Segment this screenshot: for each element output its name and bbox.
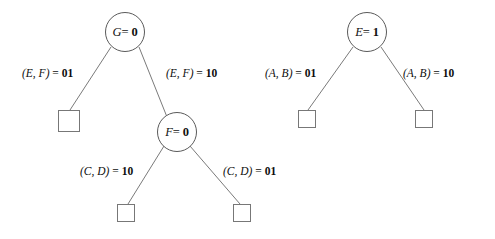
edge-label-f-right-vars: (C, D) [223,165,252,177]
edge-label-e-left-bits: 01 [305,67,317,79]
node-e-value: 1 [373,25,379,39]
edge-label-g-right-vars: (E, F) [166,67,193,79]
edge-g-right [139,47,167,117]
node-e: E= 1 [347,12,387,52]
edge-label-f-left-bits: 10 [122,165,134,177]
edge-label-g-left-bits: 01 [62,67,74,79]
edge-label-f-left-vars: (C, D) [80,165,109,177]
edge-label-f-left-equals: = [112,165,119,177]
edge-label-e-right-bits: 10 [443,67,455,79]
node-f-equals: = [173,125,180,139]
node-e-variable: E [355,25,363,39]
node-e-equals: = [363,25,370,39]
edge-label-g-left: (E, F) = 01 [22,68,73,80]
edge-label-e-right-vars: (A, B) [403,67,430,79]
edge-label-e-left: (A, B) = 01 [265,68,316,80]
node-g-value: 0 [131,25,137,39]
node-f: F= 0 [157,112,197,152]
node-g-equals: = [121,25,128,39]
edge-label-e-left-equals: = [295,67,302,79]
node-g-label: G= 0 [112,26,137,39]
edge-g-left [70,47,111,110]
edge-label-f-right: (C, D) = 01 [223,166,276,178]
edge-label-e-right-equals: = [433,67,440,79]
leaf-e-right [415,110,433,128]
leaf-g-left [58,110,80,132]
node-f-label: F= 0 [165,126,189,139]
node-g: G= 0 [105,12,145,52]
leaf-e-left [298,110,316,128]
edge-label-g-right-equals: = [196,67,203,79]
node-f-variable: F [165,125,173,139]
edge-label-g-right: (E, F) = 10 [166,68,217,80]
edge-label-g-left-equals: = [52,67,59,79]
decision-tree-figure: G= 0 F= 0 (E, F) = 01 (E, F) = 10 (C, D)… [0,0,495,239]
edge-label-e-right: (A, B) = 10 [403,68,454,80]
node-f-value: 0 [183,125,189,139]
edge-label-f-right-bits: 01 [265,165,277,177]
leaf-f-right [233,204,251,222]
node-e-label: E= 1 [355,26,379,39]
edge-f-left [128,146,164,204]
edge-label-f-left: (C, D) = 10 [80,166,133,178]
edge-label-f-right-equals: = [255,165,262,177]
edge-label-g-left-vars: (E, F) [22,67,49,79]
edge-label-e-left-vars: (A, B) [265,67,292,79]
edge-label-g-right-bits: 10 [206,67,218,79]
leaf-f-left [117,204,135,222]
